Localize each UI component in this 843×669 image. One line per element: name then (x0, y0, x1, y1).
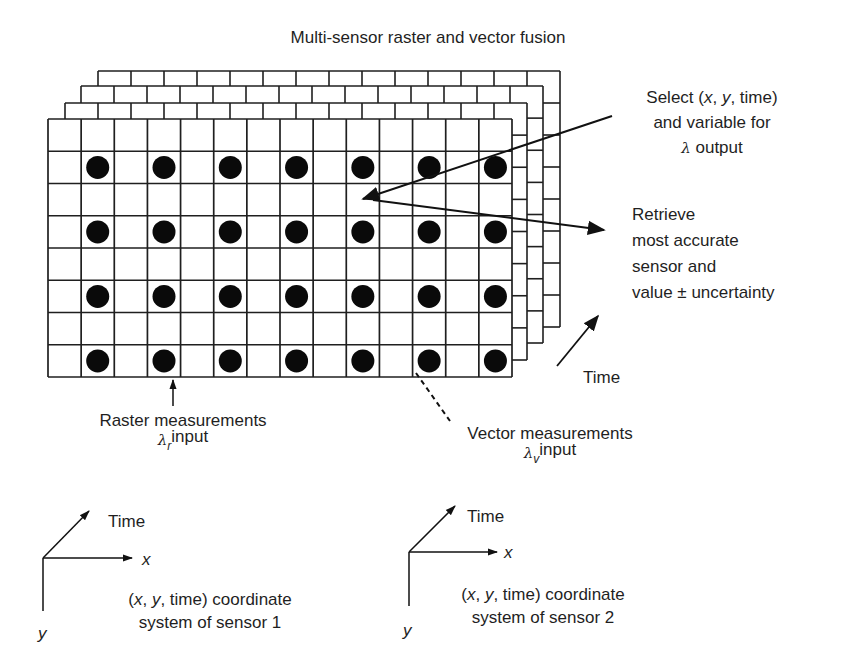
measurement-dot (484, 285, 507, 308)
cs1-caption: (x, y, time) coordinate system of sensor… (100, 590, 320, 633)
measurement-dot (86, 349, 109, 372)
cs2-caption: (x, y, time) coordinate system of sensor… (433, 585, 653, 628)
measurement-dot (351, 349, 374, 372)
measurement-dot (418, 156, 441, 179)
lambda-symbol: λ (681, 139, 691, 157)
retrieve-line-3: sensor and (632, 257, 775, 277)
select-line-2: and variable for (612, 113, 812, 133)
front-raster-grid (48, 119, 512, 377)
time-arrow (557, 316, 598, 366)
measurement-dot (285, 156, 308, 179)
diagram-title: Multi-sensor raster and vector fusion (228, 28, 628, 48)
measurement-dot (484, 220, 507, 243)
raster-line-2: λrinput (83, 430, 283, 451)
cs1-caption-line-1: (x, y, time) coordinate (100, 590, 320, 610)
measurement-dot (153, 349, 176, 372)
measurement-dot (285, 349, 308, 372)
retrieve-annotation: Retrieve most accurate sensor and value … (632, 205, 775, 303)
retrieve-line-2: most accurate (632, 231, 775, 251)
measurement-dot (86, 285, 109, 308)
retrieve-line-1: Retrieve (632, 205, 775, 225)
time-label: Time (583, 368, 620, 388)
cs2-caption-line-2: system of sensor 2 (433, 608, 653, 628)
cs2-x-label: x (504, 543, 513, 563)
measurement-dot (86, 156, 109, 179)
measurement-dot (351, 156, 374, 179)
retrieve-line-4: value ± uncertainty (632, 283, 775, 303)
measurement-dot (219, 285, 242, 308)
measurement-dot (418, 285, 441, 308)
cs1-y-label: y (38, 624, 47, 644)
measurement-dot (285, 220, 308, 243)
lambda-r-symbol: λ (158, 431, 168, 449)
cs1-x-label: x (142, 550, 151, 570)
vector-line-2: λvinput (450, 443, 650, 464)
measurement-dot (153, 220, 176, 243)
raster-measurements-label: Raster measurements λrinput (83, 411, 283, 451)
measurement-dot (153, 285, 176, 308)
measurement-dot (418, 349, 441, 372)
measurement-dot (484, 349, 507, 372)
select-line-3: λ output (612, 138, 812, 158)
select-annotation: Select (x, y, time) and variable for λ o… (612, 88, 812, 158)
lambda-v-symbol: λ (524, 444, 534, 462)
select-line-1: Select (x, y, time) (612, 88, 812, 108)
measurement-dot (484, 156, 507, 179)
measurement-dot (351, 285, 374, 308)
measurement-dot (219, 220, 242, 243)
vector-pointer-dashed-line (416, 373, 450, 421)
measurement-dot (418, 220, 441, 243)
measurement-dot (219, 156, 242, 179)
cs2-time-label: Time (467, 507, 504, 527)
measurement-dot (153, 156, 176, 179)
cs2-y-label: y (403, 621, 412, 641)
cs1-caption-line-2: system of sensor 1 (100, 613, 320, 633)
measurement-dot (86, 220, 109, 243)
cs1-time-label: Time (108, 512, 145, 532)
measurement-dot (219, 349, 242, 372)
measurement-dot (351, 220, 374, 243)
vector-measurements-label: Vector measurements λvinput (450, 424, 650, 464)
measurement-dot (285, 285, 308, 308)
cs2-caption-line-1: (x, y, time) coordinate (433, 585, 653, 605)
